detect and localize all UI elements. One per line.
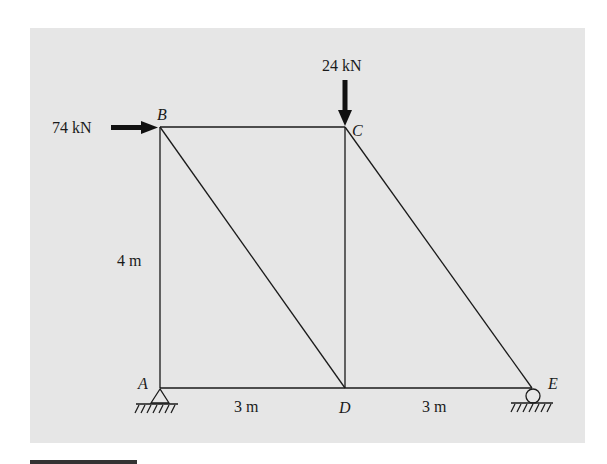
load-arrow-c: [338, 80, 352, 126]
node-label-e: E: [547, 375, 558, 392]
dimension-label-height: 4 m: [117, 252, 142, 269]
caption-bar: [30, 460, 137, 464]
load-label-c: 24 kN: [322, 57, 362, 74]
node-label-b: B: [157, 106, 167, 123]
pin-support-icon: [135, 389, 178, 413]
load-arrow-b: [111, 121, 158, 134]
dimension-label-ad: 3 m: [234, 398, 259, 415]
load-label-b: 74 kN: [52, 119, 92, 136]
member-ce: [345, 127, 532, 388]
truss-members: [160, 127, 532, 388]
truss-diagram: B C A D E 74 kN 24 kN 4 m 3 m 3 m: [0, 0, 607, 464]
node-label-c: C: [352, 122, 363, 139]
node-label-d: D: [338, 399, 351, 416]
member-bd: [160, 127, 345, 388]
dimension-label-de: 3 m: [422, 398, 447, 415]
node-label-a: A: [137, 375, 148, 392]
roller-support-icon: [511, 389, 553, 412]
